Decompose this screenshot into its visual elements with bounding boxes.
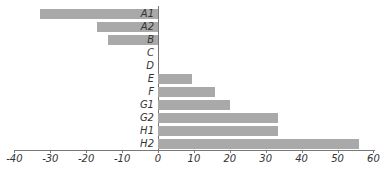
- x-tick-label: 60: [358, 153, 386, 164]
- category-label: F: [130, 86, 154, 98]
- x-tick-label: 40: [287, 153, 317, 164]
- x-tick-label: 10: [179, 153, 209, 164]
- x-tick-label: -20: [71, 153, 101, 164]
- x-tick-label: 0: [143, 153, 173, 164]
- x-tick-label: -30: [35, 153, 65, 164]
- category-label: A1: [130, 8, 154, 20]
- category-label: E: [130, 73, 154, 85]
- x-tick-label: -10: [107, 153, 137, 164]
- category-label: G1: [130, 99, 154, 111]
- category-label: D: [130, 60, 154, 72]
- category-label: H2: [130, 138, 154, 150]
- x-tick-label: -40: [0, 153, 29, 164]
- category-label: B: [130, 34, 154, 46]
- bar-g2: [158, 113, 278, 123]
- category-label: C: [130, 47, 154, 59]
- category-label: A2: [130, 21, 154, 33]
- horizontal-bar-chart: A1A2BCDEFG1G2H1H2-40-30-20-1001020304050…: [0, 0, 386, 170]
- bar-g1: [158, 100, 230, 110]
- x-axis-line: [15, 150, 375, 151]
- x-tick-label: 50: [323, 153, 353, 164]
- bar-h2: [158, 139, 359, 149]
- category-label: H1: [130, 125, 154, 137]
- bar-h1: [158, 126, 278, 136]
- category-label: G2: [130, 112, 154, 124]
- x-tick-label: 20: [215, 153, 245, 164]
- x-tick-label: 30: [251, 153, 281, 164]
- bar-f: [158, 87, 215, 97]
- bar-e: [158, 74, 192, 84]
